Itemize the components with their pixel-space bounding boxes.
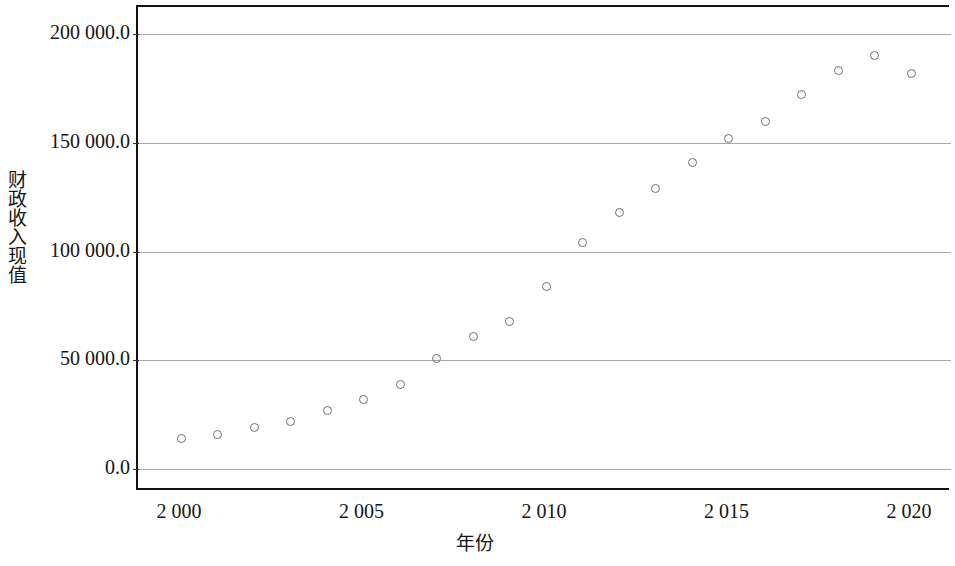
y-axis-tick-labels: 0.050 000.0100 000.0150 000.0200 000.0 — [8, 0, 130, 566]
y-tick-mark — [133, 143, 139, 144]
y-tick-mark — [133, 360, 139, 361]
data-point — [907, 69, 916, 78]
gridline — [138, 143, 951, 144]
gridline — [138, 252, 951, 253]
y-tick-label: 150 000.0 — [10, 131, 130, 151]
data-point — [469, 332, 478, 341]
plot-inner — [138, 7, 949, 488]
gridline — [138, 34, 951, 35]
y-tick-label: 200 000.0 — [10, 22, 130, 42]
data-point — [505, 317, 514, 326]
x-tick-label: 2 000 — [119, 499, 239, 523]
gridline — [138, 360, 951, 361]
x-tick-label: 2 010 — [484, 499, 604, 523]
data-point — [651, 184, 660, 193]
y-tick-label: 50 000.0 — [10, 348, 130, 368]
data-point — [286, 417, 295, 426]
data-point — [542, 282, 551, 291]
data-point — [578, 238, 587, 247]
data-point — [396, 380, 405, 389]
data-point — [323, 406, 332, 415]
data-point — [250, 423, 259, 432]
y-tick-mark — [133, 34, 139, 35]
data-point — [432, 354, 441, 363]
x-axis-tick-labels: 2 0002 0052 0102 0152 020 — [0, 499, 949, 529]
y-tick-mark — [133, 469, 139, 470]
x-tick-label: 2 015 — [667, 499, 787, 523]
data-point — [688, 158, 697, 167]
y-tick-mark — [133, 252, 139, 253]
data-point — [834, 66, 843, 75]
y-tick-label: 0.0 — [10, 457, 130, 477]
data-point — [615, 208, 624, 217]
data-point — [359, 395, 368, 404]
data-point — [870, 51, 879, 60]
gridline — [138, 469, 951, 470]
y-tick-label: 100 000.0 — [10, 240, 130, 260]
data-point — [761, 117, 770, 126]
data-point — [724, 134, 733, 143]
plot-area — [136, 5, 949, 490]
x-tick-label: 2 020 — [849, 499, 955, 523]
data-point — [213, 430, 222, 439]
data-point — [797, 90, 806, 99]
x-axis-title: 年份 — [0, 532, 949, 556]
x-tick-label: 2 005 — [302, 499, 422, 523]
data-point — [177, 434, 186, 443]
